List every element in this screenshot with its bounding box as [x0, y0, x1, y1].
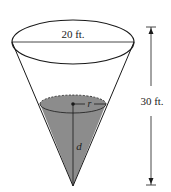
height-label: 30 ft.: [140, 95, 163, 107]
depth-label: d: [76, 140, 82, 152]
top-diameter-label: 20 ft.: [61, 28, 84, 40]
cone-diagram: 20 ft. r d 30 ft.: [0, 0, 171, 192]
radius-label: r: [88, 98, 92, 109]
height-arrow-up-icon: [149, 28, 154, 34]
height-arrow-down-icon: [149, 178, 154, 184]
